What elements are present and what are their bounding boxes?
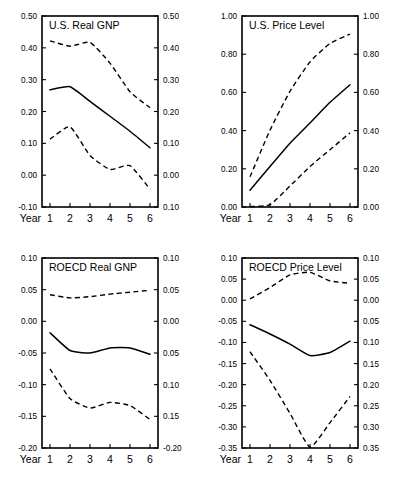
- y-tick-label-right: 0.15: [363, 360, 379, 369]
- y-tick-label-left: -0.20: [18, 444, 37, 453]
- x-axis-name: Year: [220, 453, 242, 465]
- y-tick-label-right: 0.00: [163, 317, 179, 326]
- y-tick-label-right: 0.20: [363, 165, 379, 174]
- x-tick-label: 6: [347, 453, 353, 465]
- series-line-0: [50, 290, 150, 298]
- panel-grid: -0.100.100.000.000.100.100.200.200.300.3…: [0, 0, 400, 483]
- y-tick-label-right: 0.00: [163, 171, 179, 180]
- y-tick-label-left: 0.00: [21, 317, 37, 326]
- y-tick-label-left: -0.30: [218, 423, 237, 432]
- y-tick-label-right: 0.10: [363, 254, 379, 263]
- x-tick-label: 4: [307, 453, 313, 465]
- chart-us-price-level: 0.000.000.200.200.400.400.600.600.800.80…: [220, 12, 380, 224]
- y-tick-label-right: 0.10: [163, 381, 179, 390]
- y-tick-label-right: 1.00: [363, 12, 379, 21]
- x-tick-label: 1: [247, 212, 253, 224]
- x-axis-name: Year: [20, 453, 42, 465]
- y-tick-label-right: 0.20: [363, 381, 379, 390]
- chart-svg-1: 0.000.000.200.200.400.400.600.600.800.80…: [200, 0, 400, 242]
- chart-us-real-gnp: -0.100.100.000.000.100.100.200.200.300.3…: [18, 12, 179, 224]
- chart-roecd-real-gnp: -0.20-0.20-0.150.15-0.100.10-0.050.050.0…: [18, 254, 182, 465]
- y-tick-label-left: -0.10: [18, 203, 37, 212]
- y-tick-label-left: 0.50: [21, 12, 37, 21]
- y-tick-label-right: 0.10: [163, 139, 179, 148]
- y-tick-label-right: 0.00: [363, 203, 379, 212]
- x-tick-label: 6: [147, 453, 153, 465]
- x-tick-label: 6: [147, 212, 153, 224]
- y-tick-label-left: 0.80: [221, 50, 237, 59]
- x-tick-label: 5: [327, 453, 333, 465]
- y-tick-label-right: 0.05: [163, 349, 179, 358]
- x-tick-label: 2: [67, 453, 73, 465]
- y-tick-label-left: -0.20: [218, 381, 237, 390]
- x-axis-name: Year: [20, 212, 42, 224]
- figure-container: -0.100.100.000.000.100.100.200.200.300.3…: [0, 0, 400, 483]
- y-tick-label-right: 0.05: [363, 275, 379, 284]
- x-tick-label: 4: [307, 212, 313, 224]
- series-line-2: [250, 352, 350, 447]
- y-tick-label-right: 0.35: [363, 444, 379, 453]
- y-tick-label-left: 0.30: [21, 76, 37, 85]
- y-tick-label-left: 0.00: [221, 203, 237, 212]
- y-tick-label-left: 0.60: [221, 88, 237, 97]
- y-tick-label-right: 0.05: [163, 286, 179, 295]
- x-tick-label: 4: [107, 453, 113, 465]
- y-tick-label-left: 0.20: [221, 165, 237, 174]
- y-tick-label-left: -0.10: [218, 338, 237, 347]
- y-tick-label-left: 0.20: [21, 108, 37, 117]
- plot-frame: [42, 258, 158, 448]
- x-tick-label: 5: [127, 212, 133, 224]
- y-tick-label-right: 0.10: [163, 203, 179, 212]
- y-tick-label-left: -0.35: [218, 444, 237, 453]
- series-line-0: [250, 272, 350, 299]
- y-tick-label-left: 0.10: [21, 254, 37, 263]
- y-tick-label-left: 0.40: [21, 44, 37, 53]
- series-line-1: [250, 85, 350, 190]
- y-tick-label-right: 0.00: [363, 296, 379, 305]
- y-tick-label-left: 1.00: [221, 12, 237, 21]
- y-tick-label-left: 0.40: [221, 127, 237, 136]
- series-line-1: [250, 325, 350, 356]
- y-tick-label-left: 0.10: [221, 254, 237, 263]
- y-tick-label-left: 0.10: [21, 139, 37, 148]
- x-axis-name: Year: [220, 212, 242, 224]
- x-tick-label: 1: [47, 212, 53, 224]
- y-tick-label-right: 0.05: [363, 317, 379, 326]
- y-tick-label-left: 0.00: [21, 171, 37, 180]
- y-tick-label-left: 0.05: [221, 275, 237, 284]
- chart-panel-us-price-level: 0.000.000.200.200.400.400.600.600.800.80…: [200, 0, 400, 242]
- panel-title: ROECD Real GNP: [49, 261, 137, 273]
- y-tick-label-right: 0.40: [363, 127, 379, 136]
- x-tick-label: 5: [127, 453, 133, 465]
- x-tick-label: 1: [47, 453, 53, 465]
- x-tick-label: 2: [267, 453, 273, 465]
- y-tick-label-right: 0.20: [163, 108, 179, 117]
- y-tick-label-left: -0.10: [18, 381, 37, 390]
- y-tick-label-right: 0.30: [363, 423, 379, 432]
- x-tick-label: 3: [87, 212, 93, 224]
- y-tick-label-left: -0.05: [218, 317, 237, 326]
- y-tick-label-right: 0.30: [163, 76, 179, 85]
- series-line-1: [50, 333, 150, 355]
- chart-panel-roecd-real-gnp: -0.20-0.20-0.150.15-0.100.10-0.050.050.0…: [0, 242, 200, 483]
- chart-panel-us-real-gnp: -0.100.100.000.000.100.100.200.200.300.3…: [0, 0, 200, 242]
- y-tick-label-right: 0.60: [363, 88, 379, 97]
- y-tick-label-right: 0.50: [163, 12, 179, 21]
- series-line-0: [250, 34, 350, 177]
- y-tick-label-right: 0.15: [163, 412, 179, 421]
- panel-title: U.S. Real GNP: [49, 19, 120, 31]
- y-tick-label-left: 0.00: [221, 296, 237, 305]
- y-tick-label-left: -0.05: [18, 349, 37, 358]
- x-tick-label: 2: [67, 212, 73, 224]
- chart-panel-roecd-price-level: -0.350.35-0.300.30-0.250.25-0.200.20-0.1…: [200, 242, 400, 483]
- chart-roecd-price-level: -0.350.35-0.300.30-0.250.25-0.200.20-0.1…: [218, 254, 379, 465]
- chart-svg-2: -0.20-0.20-0.150.15-0.100.10-0.050.050.0…: [0, 242, 200, 483]
- y-tick-label-right: -0.20: [163, 444, 182, 453]
- x-tick-label: 4: [107, 212, 113, 224]
- y-tick-label-left: -0.15: [18, 412, 37, 421]
- x-tick-label: 3: [87, 453, 93, 465]
- y-tick-label-left: -0.25: [218, 402, 237, 411]
- panel-title: U.S. Price Level: [249, 19, 324, 31]
- series-line-0: [50, 41, 150, 108]
- x-tick-label: 1: [247, 453, 253, 465]
